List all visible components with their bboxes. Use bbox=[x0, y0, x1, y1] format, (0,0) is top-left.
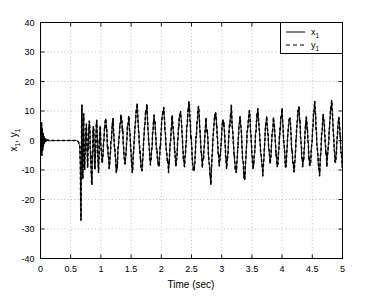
x-tick-label: 5 bbox=[340, 264, 345, 274]
y-tick-label: 0 bbox=[29, 136, 34, 146]
x-axis-title: Time (sec) bbox=[168, 279, 215, 290]
x-tick-label: 0.5 bbox=[64, 264, 77, 274]
time-series-chart: 00.511.522.533.544.55 -40-30-20-10010203… bbox=[0, 0, 368, 303]
x-tick-label: 4 bbox=[280, 264, 285, 274]
y-axis-title-sep: , y bbox=[8, 132, 19, 143]
x-tick-label: 1.5 bbox=[125, 264, 138, 274]
x-tick-label: 2 bbox=[159, 264, 164, 274]
x-tick-label: 4.5 bbox=[306, 264, 319, 274]
x-axis-title-text: Time (sec) bbox=[168, 279, 215, 290]
figure-container: 00.511.522.533.544.55 -40-30-20-10010203… bbox=[0, 0, 368, 303]
y-tick-label: -30 bbox=[21, 224, 34, 234]
x-tick-label: 0 bbox=[38, 264, 43, 274]
y-tick-label: -40 bbox=[21, 254, 34, 264]
y-tick-label: 20 bbox=[24, 77, 34, 87]
legend[interactable]: x1 y1 bbox=[281, 23, 343, 54]
y-tick-label: 40 bbox=[24, 18, 34, 28]
y-tick-label: -20 bbox=[21, 195, 34, 205]
x-tick-label: 3 bbox=[219, 264, 224, 274]
x-tick-label: 1 bbox=[98, 264, 103, 274]
y-tick-label: 30 bbox=[24, 47, 34, 57]
y-tick-label: -10 bbox=[21, 165, 34, 175]
x-tick-label: 2.5 bbox=[185, 264, 198, 274]
y-tick-label: 10 bbox=[24, 106, 34, 116]
y-axis-title-sub2: 1 bbox=[14, 128, 21, 132]
x-tick-label: 3.5 bbox=[246, 264, 259, 274]
legend-y1-sub: 1 bbox=[316, 45, 320, 52]
legend-x1-sub: 1 bbox=[316, 32, 320, 39]
